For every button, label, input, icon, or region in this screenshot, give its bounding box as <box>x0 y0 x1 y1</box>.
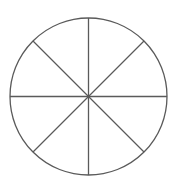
eight-sector-circle <box>0 0 178 191</box>
diagram-canvas <box>0 0 178 191</box>
diameter-lines <box>10 18 167 175</box>
